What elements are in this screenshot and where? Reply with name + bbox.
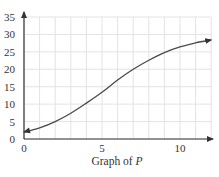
- x-tick-label: 5: [99, 142, 105, 154]
- grid-lines: [24, 17, 211, 139]
- y-tick-label: 35: [4, 11, 16, 23]
- y-tick-label: 0: [10, 133, 16, 145]
- tick-labels: 051005101520253035: [4, 11, 186, 154]
- chart-title-variable: P: [135, 155, 143, 167]
- chart-title: Graph of P: [91, 155, 142, 168]
- y-tick-label: 10: [4, 98, 16, 110]
- x-tick-label: 10: [175, 142, 187, 154]
- y-tick-label: 25: [4, 46, 16, 58]
- chart-title-prefix: Graph of: [91, 155, 135, 168]
- axes: [24, 12, 213, 139]
- y-tick-label: 30: [4, 28, 16, 40]
- y-tick-label: 5: [10, 116, 16, 128]
- chart: 051005101520253035 Graph of P: [0, 0, 219, 177]
- y-tick-label: 20: [4, 63, 16, 75]
- y-tick-label: 15: [4, 81, 16, 93]
- x-tick-label: 0: [21, 142, 27, 154]
